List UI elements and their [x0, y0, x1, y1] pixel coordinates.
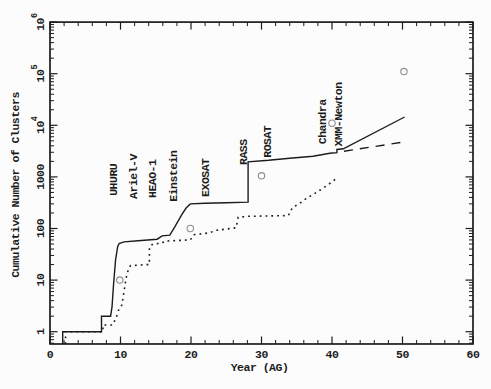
y-axis-tick-label: 106	[31, 13, 47, 31]
mission-label-heao-1: HEAO-1	[146, 159, 159, 198]
y-axis-tick-label: 105	[31, 65, 47, 83]
mission-label-exosat: EXOSAT	[199, 158, 212, 197]
mission-label-ariel-v: Ariel-V	[127, 153, 140, 198]
mission-label-chandra: Chandra	[316, 99, 329, 144]
cluster-count-chart: 01020304050601101001000104105106UHURUAri…	[0, 0, 491, 389]
y-axis-tick-label: 104	[31, 116, 47, 134]
y-axis-tick-label: 1000	[34, 164, 47, 190]
mission-label-xmm-newton: XMM-Newton	[332, 82, 345, 147]
y-axis-tick-label: 1	[34, 328, 47, 335]
x-axis-title: Year (AG)	[231, 361, 289, 374]
x-axis-tick-label: 20	[185, 348, 198, 361]
circle-marker	[401, 68, 407, 74]
y-axis-tick-label: 10	[34, 273, 47, 286]
xray-cumulative-solid-line	[63, 117, 405, 344]
x-axis-tick-label: 40	[326, 348, 339, 361]
mission-label-rass: RASS	[237, 139, 250, 165]
circle-marker	[258, 173, 264, 179]
x-axis-tick-label: 10	[114, 348, 127, 361]
figure-canvas: 01020304050601101001000104105106UHURUAri…	[0, 0, 491, 389]
x-axis-tick-label: 30	[255, 348, 268, 361]
mission-label-rosat: ROSAT	[261, 125, 274, 158]
circle-marker	[117, 277, 123, 283]
x-axis-tick-label: 60	[467, 348, 480, 361]
mission-label-uhuru: UHURU	[107, 163, 120, 196]
x-axis-tick-label: 0	[47, 348, 54, 361]
y-axis-title: Cumulative Number of Clusters	[9, 92, 22, 278]
x-axis-tick-label: 50	[396, 348, 409, 361]
mission-label-einstein: Einstein	[167, 150, 180, 202]
y-axis-tick-label: 100	[34, 218, 47, 238]
circle-marker	[187, 225, 193, 231]
